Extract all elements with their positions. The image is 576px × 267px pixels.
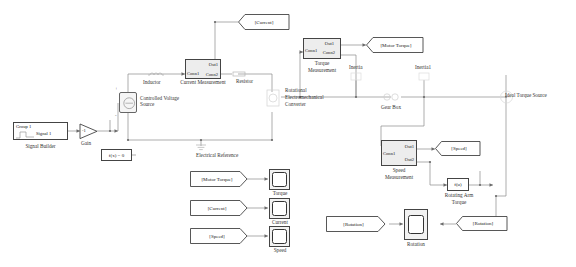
torque-measurement-block[interactable]: Conn1 Out1 Conn2: [303, 38, 341, 59]
signal-builder-group: Group 1: [16, 124, 31, 129]
resistor-symbol: [232, 70, 246, 78]
torque-measurement-out1-port: Out1: [325, 41, 334, 46]
electrical-reference-symbol[interactable]: [195, 144, 208, 152]
signal-builder-waveform: [16, 130, 36, 140]
inertia1-block[interactable]: [418, 72, 430, 81]
current-measurement-block[interactable]: Conn1 Out1 Conn2: [185, 59, 221, 79]
ideal-torque-source-label: Ideal Torque Source: [505, 92, 571, 98]
speed-measurement-out2-port: Out2: [405, 157, 414, 162]
gain-value: -1: [82, 128, 86, 133]
motor-torque-from-tag[interactable]: [Motor Torque]: [190, 171, 244, 187]
gear-box-block[interactable]: [381, 91, 401, 103]
speed-scope-label: Speed: [266, 247, 294, 253]
current-measurement-label: Current Measurement: [170, 79, 236, 85]
rotating-arm-torque-expr: f(u): [454, 182, 462, 187]
speed-measurement-block[interactable]: Conn1 Out1 Out2: [381, 140, 417, 166]
electrical-reference-label: Electrical Reference: [196, 152, 238, 158]
cvs-plus-port: +: [115, 86, 118, 91]
current-measurement-conn1-port: Conn1: [187, 71, 199, 76]
rotation-goto-tag[interactable]: [Rotation]: [458, 216, 508, 231]
signal-builder-label: Signal Builder: [8, 143, 73, 149]
rotational-converter-block[interactable]: [264, 88, 282, 108]
speed-scope-screen: [272, 229, 287, 244]
inertia-label: Inertia: [349, 64, 363, 70]
speed-measurement-conn1-port: Conn1: [383, 151, 395, 156]
controlled-voltage-source-label: Controlled Voltage Source: [140, 95, 200, 107]
signal-builder-signal: Signal 1: [36, 131, 51, 136]
inductor-label: Inductor: [143, 79, 161, 85]
torque-scope-screen: [272, 172, 287, 187]
gear-box-label: Gear Box: [372, 104, 410, 110]
controlled-voltage-source-block[interactable]: [119, 92, 137, 113]
inductor-symbol: [148, 69, 164, 79]
speed-from-tag[interactable]: [Speed]: [190, 228, 244, 244]
rotating-arm-torque-label: Rotating Arm Torque: [437, 192, 481, 205]
current-scope-label: Current: [266, 219, 294, 225]
block-diagram-canvas: Group 1 Signal 1 Signal Builder -1 Gain …: [0, 0, 576, 267]
resistor-label: Resistor: [236, 78, 253, 84]
torque-measurement-conn2-port: Conn2: [323, 50, 335, 55]
current-from-tag[interactable]: [Current]: [190, 200, 244, 216]
speed-scope[interactable]: [269, 226, 290, 247]
inductor-block[interactable]: [148, 69, 164, 79]
rotation-scope[interactable]: [404, 209, 428, 240]
solver-label: f(x) = 0: [109, 153, 124, 158]
gain-label: Gain: [81, 140, 91, 146]
solver-block[interactable]: f(x) = 0: [101, 149, 132, 161]
rotational-converter-label: Rotational Electromechanical Converter: [285, 87, 343, 108]
rotating-arm-torque-block[interactable]: f(u): [447, 178, 469, 191]
inertia1-label: Inertia1: [415, 64, 431, 70]
torque-measurement-label: Torque Measurement: [298, 60, 346, 73]
inertia1-symbol: [418, 72, 430, 81]
current-measurement-out1-port: Out1: [209, 62, 218, 67]
motor-torque-goto-tag[interactable]: [Motor Torque]: [368, 37, 424, 53]
current-scope-screen: [272, 201, 287, 216]
voltage-source-symbol: [123, 97, 136, 110]
rotation-scope-screen: [408, 215, 425, 233]
inertia-symbol: [350, 72, 362, 81]
current-measurement-conn2-port: Conn2: [206, 72, 218, 77]
gear-box-symbol: [381, 91, 401, 103]
resistor-block[interactable]: [232, 70, 246, 78]
signal-builder-block[interactable]: Group 1 Signal 1: [13, 122, 68, 140]
torque-scope-label: Torque: [266, 190, 294, 196]
current-goto-tag[interactable]: [Current]: [238, 14, 290, 30]
rotation-from-tag[interactable]: [Rotation]: [326, 216, 381, 232]
torque-scope[interactable]: [269, 169, 290, 190]
current-scope[interactable]: [269, 198, 290, 219]
inertia-block[interactable]: [350, 72, 362, 81]
torque-measurement-conn1-port: Conn1: [305, 48, 317, 53]
converter-symbol: [264, 88, 282, 108]
cvs-minus-port: -: [115, 113, 117, 118]
speed-measurement-label: Speed Measurement: [375, 167, 423, 180]
speed-measurement-out1-port: Out1: [405, 144, 414, 149]
rotation-scope-label: Rotation: [400, 241, 432, 247]
speed-goto-tag[interactable]: [Speed]: [437, 141, 481, 156]
